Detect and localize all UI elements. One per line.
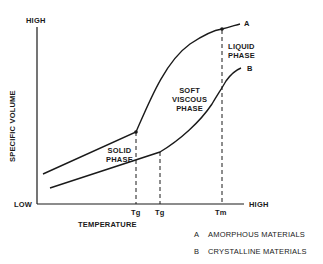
y-axis-title: SPECIFIC VOLUME (8, 90, 17, 162)
soft-viscous-line-3: PHASE (172, 104, 207, 113)
tick-tg-a: Tg (131, 208, 141, 217)
curve-a-tg-point (134, 130, 138, 134)
solid-phase-line-2: PHASE (106, 155, 133, 164)
x-axis-title: TEMPERATURE (78, 220, 137, 229)
legend-item-a: AAMORPHOUS MATERIALS (194, 230, 305, 239)
x-axis-high-label: HIGH (249, 200, 269, 209)
soft-viscous-line-1: SOFT (172, 86, 207, 95)
curve-b-label: B (247, 64, 253, 73)
soft-viscous-line-2: VISCOUS (172, 95, 207, 104)
legend-key-b: B (194, 247, 208, 256)
curve-a-label: A (244, 19, 250, 28)
y-axis-low-label: LOW (14, 200, 32, 209)
diagram-canvas (0, 0, 323, 264)
curve-b-crystalline (50, 68, 241, 188)
legend-item-b: BCRYSTALLINE MATERIALS (194, 247, 307, 256)
liquid-phase-line-1: LIQUID (228, 42, 255, 51)
legend-text-a: AMORPHOUS MATERIALS (208, 230, 305, 239)
legend-key-a: A (194, 230, 208, 239)
curve-a-amorphous (43, 24, 240, 174)
soft-viscous-phase-label: SOFT VISCOUS PHASE (172, 86, 207, 113)
tick-tm: Tm (215, 208, 227, 217)
liquid-phase-label: LIQUID PHASE (228, 42, 255, 60)
solid-phase-label: SOLID PHASE (106, 146, 133, 164)
tick-tg-b: Tg (155, 208, 165, 217)
legend-text-b: CRYSTALLINE MATERIALS (208, 247, 307, 256)
curve-a-tm-point (220, 27, 224, 31)
liquid-phase-line-2: PHASE (228, 51, 255, 60)
y-axis-high-label: HIGH (26, 16, 46, 25)
solid-phase-line-1: SOLID (106, 146, 133, 155)
